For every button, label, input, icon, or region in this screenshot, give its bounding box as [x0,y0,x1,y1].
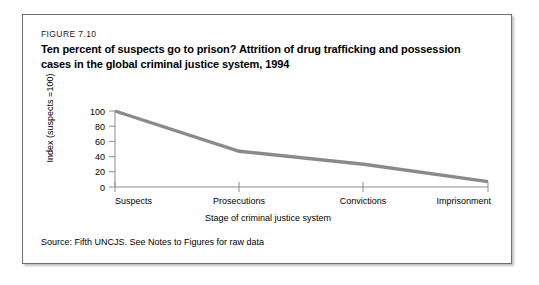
x-tick-label-prosecutions: Prosecutions [213,196,266,206]
figure-number: FIGURE 7.10 [41,29,96,39]
data-series-line [115,111,488,182]
y-axis-ticks [109,111,115,187]
chart-plot-area: Index (suspects =100) 100 80 60 40 20 0 [31,77,501,207]
source-note: Source: Fifth UNCJS. See Notes to Figure… [41,237,264,247]
y-tick-label-20: 20 [95,167,105,177]
x-tick-label-convictions: Convictions [340,196,387,206]
y-tick-label-0: 0 [100,183,105,193]
y-tick-label-100: 100 [90,107,105,117]
x-axis-title: Stage of criminal justice system [23,213,513,223]
y-tick-label-80: 80 [95,122,105,132]
x-tick-label-suspects: Suspects [115,196,153,206]
y-tick-label-60: 60 [95,137,105,147]
line-chart-svg: 100 80 60 40 20 0 Suspects Prosecutions … [31,77,501,207]
y-tick-label-40: 40 [95,152,105,162]
y-axis-title: Index (suspects =100) [45,63,55,173]
figure-card: FIGURE 7.10 Ten percent of suspects go t… [22,14,512,264]
figure-title: Ten percent of suspects go to prison? At… [41,42,493,71]
x-tick-label-imprisonment: Imprisonment [436,196,491,206]
